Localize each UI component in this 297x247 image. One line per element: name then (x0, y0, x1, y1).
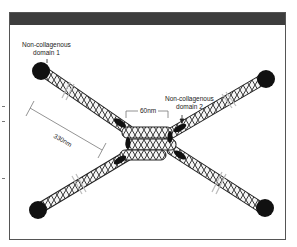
label-nc2-line1: Non-collagenous (165, 95, 214, 103)
label-nc1-line1: Non-collagenous (22, 41, 71, 49)
collagen-iv-diagram (0, 0, 297, 247)
label-nc-domain-1: Non-collagenous domain 1 (22, 41, 71, 56)
label-nc1-line2: domain 1 (22, 49, 71, 57)
label-nc2-line2: domain 2 (165, 103, 214, 111)
label-nc-domain-2: Non-collagenous domain 2 (165, 95, 214, 110)
label-60nm: 60nm (140, 107, 156, 115)
